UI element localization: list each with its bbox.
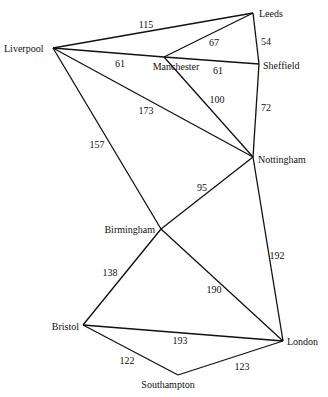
- edge-weight-nottingham-birmingham: 95: [197, 182, 207, 193]
- edge-weight-southampton-london: 123: [235, 361, 250, 372]
- edge-manchester-nottingham: [164, 57, 253, 157]
- edge-weight-manchester-sheffield: 61: [213, 65, 223, 76]
- edge-weight-liverpool-manchester: 61: [115, 58, 125, 69]
- edge-weight-birmingham-bristol: 138: [103, 267, 118, 278]
- edge-weight-leeds-manchester: 67: [209, 37, 219, 48]
- edge-southampton-london: [178, 341, 283, 375]
- edge-sheffield-nottingham: [253, 64, 259, 157]
- edge-liverpool-birmingham: [53, 48, 161, 229]
- city-label-liverpool: Liverpool: [4, 43, 44, 54]
- city-label-sheffield: Sheffield: [263, 60, 299, 71]
- edge-birmingham-bristol: [83, 229, 161, 325]
- edge-weight-bristol-london: 193: [173, 335, 188, 346]
- edge-nottingham-birmingham: [161, 157, 253, 229]
- city-label-nottingham: Nottingham: [258, 154, 306, 165]
- edge-weight-leeds-sheffield: 54: [261, 36, 271, 47]
- edge-weight-liverpool-birmingham: 157: [90, 139, 105, 150]
- edge-weight-sheffield-nottingham: 72: [261, 102, 271, 113]
- city-label-leeds: Leeds: [259, 8, 283, 19]
- weighted-graph: 1156167546117310072157951921381901931221…: [0, 0, 328, 397]
- edge-weight-birmingham-london: 190: [207, 284, 222, 295]
- city-label-birmingham: Birmingham: [104, 224, 155, 235]
- edge-weight-liverpool-leeds: 115: [139, 19, 154, 30]
- city-labels-layer: LiverpoolLeedsManchesterSheffieldNotting…: [4, 8, 318, 390]
- edge-weight-bristol-southampton: 122: [120, 355, 135, 366]
- city-label-london: London: [287, 336, 318, 347]
- edge-nottingham-london: [253, 157, 283, 341]
- edge-weight-liverpool-nottingham: 173: [139, 105, 154, 116]
- edge-birmingham-london: [161, 229, 283, 341]
- edge-weight-nottingham-london: 192: [270, 250, 285, 261]
- city-label-southampton: Southampton: [141, 379, 194, 390]
- city-label-manchester: Manchester: [153, 61, 200, 72]
- edge-liverpool-manchester: [53, 48, 164, 57]
- edge-bristol-southampton: [83, 325, 178, 375]
- city-label-bristol: Bristol: [52, 321, 79, 332]
- edge-weight-manchester-nottingham: 100: [210, 94, 225, 105]
- edge-leeds-sheffield: [253, 13, 259, 64]
- edge-leeds-manchester: [164, 13, 253, 57]
- road-network-diagram: 1156167546117310072157951921381901931221…: [0, 0, 328, 397]
